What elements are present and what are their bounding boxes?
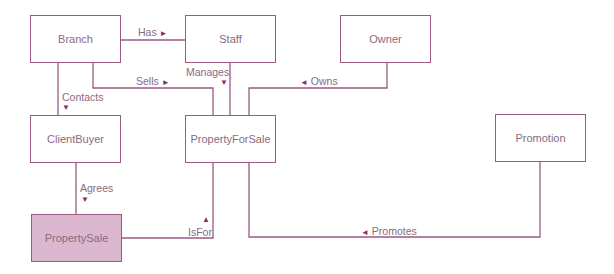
rel-label-owns: ◄ Owns — [300, 75, 338, 89]
entity-branch[interactable]: Branch — [30, 15, 121, 63]
line-owns — [249, 63, 387, 115]
rel-label-agrees: Agrees — [80, 182, 113, 194]
entity-label: Staff — [219, 33, 241, 45]
entity-propertyforsale[interactable]: PropertyForSale — [185, 115, 276, 163]
entity-staff[interactable]: Staff — [185, 15, 276, 63]
entity-label: Promotion — [515, 132, 565, 144]
rel-label-promotes: ◄ Promotes — [361, 225, 417, 239]
entity-label: Branch — [58, 33, 93, 45]
entity-label: PropertySale — [45, 232, 109, 244]
entity-clientbuyer[interactable]: ClientBuyer — [30, 115, 121, 163]
entity-label: ClientBuyer — [47, 133, 104, 145]
rel-label-manages: Manages — [186, 66, 229, 78]
arrow-left-icon: ◄ — [361, 228, 369, 237]
entity-promotion[interactable]: Promotion — [495, 114, 586, 162]
arrow-right-icon: ► — [162, 78, 170, 87]
rel-label-has: Has ► — [138, 26, 168, 40]
rel-label-contacts: Contacts — [62, 91, 103, 103]
arrow-down-icon: ▼ — [220, 79, 228, 87]
arrow-right-icon: ► — [160, 29, 168, 38]
entity-propertysale[interactable]: PropertySale — [31, 214, 122, 262]
arrow-left-icon: ◄ — [300, 78, 308, 87]
rel-label-sells: Sells ► — [136, 75, 170, 89]
arrow-up-icon: ▲ — [202, 216, 210, 224]
arrow-down-icon: ▼ — [62, 104, 70, 112]
arrow-down-icon: ▼ — [81, 196, 89, 204]
entity-owner[interactable]: Owner — [340, 15, 431, 63]
er-diagram: Branch Staff Owner ClientBuyer PropertyF… — [0, 0, 614, 274]
entity-label: PropertyForSale — [190, 133, 270, 145]
rel-label-isfor: IsFor — [188, 226, 212, 238]
entity-label: Owner — [369, 33, 401, 45]
